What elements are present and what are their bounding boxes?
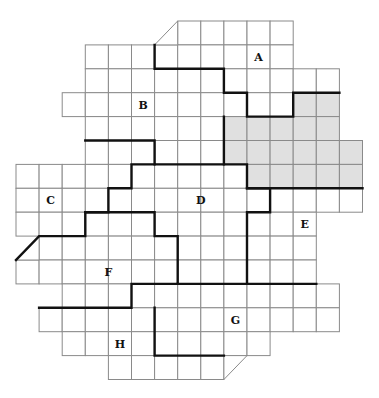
grid-cell <box>85 308 108 332</box>
grid-cell <box>132 332 155 356</box>
grid-cell <box>247 308 270 332</box>
grid-cell <box>178 141 201 165</box>
grid-cell <box>316 308 339 332</box>
grid-cell <box>247 93 270 117</box>
grid-cell <box>201 21 224 45</box>
grid-cell <box>293 284 316 308</box>
shaded-grid-cell <box>293 141 316 165</box>
grid-cell <box>85 284 108 308</box>
grid-cell <box>339 188 362 212</box>
grid-cell <box>178 45 201 69</box>
grid-cell <box>224 21 247 45</box>
grid-cell <box>108 164 131 188</box>
grid-cell <box>85 69 108 93</box>
grid-cell <box>155 69 178 93</box>
grid-cell <box>270 236 293 260</box>
grid-cell <box>201 356 224 380</box>
grid-cell <box>224 212 247 236</box>
grid-cell <box>155 212 178 236</box>
grid-cell <box>247 236 270 260</box>
grid-cell <box>108 308 131 332</box>
grid-cell <box>39 308 62 332</box>
grid-cell <box>132 45 155 69</box>
grid-cell <box>224 69 247 93</box>
grid-cell <box>201 260 224 284</box>
grid-cell <box>16 212 39 236</box>
grid-cell <box>224 45 247 69</box>
grid-cell <box>178 356 201 380</box>
grid-cell <box>270 188 293 212</box>
grid-cell <box>316 69 339 93</box>
grid-cell <box>201 212 224 236</box>
grid-cell <box>132 141 155 165</box>
grid-cells <box>16 21 363 380</box>
grid-cell <box>270 212 293 236</box>
grid-cell <box>108 117 131 141</box>
grid-cell <box>270 308 293 332</box>
grid-cell <box>85 45 108 69</box>
shaded-grid-cell <box>224 141 247 165</box>
grid-cell <box>62 308 85 332</box>
grid-cell <box>62 332 85 356</box>
grid-cell <box>178 117 201 141</box>
grid-cell <box>85 188 108 212</box>
shaded-grid-cell <box>293 93 316 117</box>
grid-cell <box>155 164 178 188</box>
shaded-grid-cell <box>293 117 316 141</box>
grid-cell <box>201 141 224 165</box>
grid-cell <box>62 188 85 212</box>
shaded-grid-cell <box>316 117 339 141</box>
grid-cell <box>178 236 201 260</box>
grid-cell <box>178 284 201 308</box>
shaded-grid-cell <box>247 141 270 165</box>
grid-cell <box>178 164 201 188</box>
grid-cell <box>39 260 62 284</box>
grid-cell <box>247 260 270 284</box>
grid-cell <box>132 284 155 308</box>
grid-cell <box>293 260 316 284</box>
grid-cell <box>224 332 247 356</box>
grid-cell <box>293 188 316 212</box>
grid-cell <box>132 117 155 141</box>
half-grid-cell <box>155 21 178 45</box>
grid-cell <box>132 69 155 93</box>
shaded-grid-cell <box>316 164 339 188</box>
grid-cell <box>224 188 247 212</box>
grid-cell <box>201 308 224 332</box>
grid-cell <box>16 188 39 212</box>
grid-cell <box>132 260 155 284</box>
grid-cell <box>247 332 270 356</box>
grid-cell <box>316 188 339 212</box>
grid-cell <box>224 260 247 284</box>
grid-cell <box>270 21 293 45</box>
grid-cell <box>16 164 39 188</box>
grid-cell <box>224 93 247 117</box>
region-grid-diagram: A B C D E F G H <box>0 0 379 398</box>
grid-cell <box>62 260 85 284</box>
label-h: H <box>115 338 125 351</box>
shaded-grid-cell <box>316 93 339 117</box>
shaded-grid-cell <box>293 164 316 188</box>
grid-cell <box>201 93 224 117</box>
grid-cell <box>270 45 293 69</box>
grid-cell <box>224 284 247 308</box>
grid-cell <box>201 164 224 188</box>
shaded-grid-cell <box>270 117 293 141</box>
grid-cell <box>155 284 178 308</box>
grid-cell <box>178 308 201 332</box>
grid-cell <box>85 212 108 236</box>
shaded-grid-cell <box>339 164 362 188</box>
grid-cell <box>155 332 178 356</box>
grid-cell <box>132 188 155 212</box>
grid-cell <box>108 69 131 93</box>
label-g: G <box>231 314 240 327</box>
grid-cell <box>293 69 316 93</box>
grid-cell <box>270 260 293 284</box>
label-f: F <box>104 266 112 279</box>
grid-cell <box>108 284 131 308</box>
grid-cell <box>201 236 224 260</box>
grid-cell <box>16 260 39 284</box>
grid-cell <box>247 284 270 308</box>
grid-cell <box>132 236 155 260</box>
grid-cell <box>108 188 131 212</box>
